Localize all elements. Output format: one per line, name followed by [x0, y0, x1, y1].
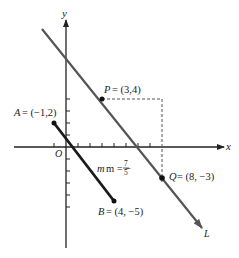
svg-text:B: B: [98, 206, 105, 217]
svg-text:= (4, −5): = (4, −5): [106, 206, 144, 218]
coordinate-diagram: y x O L P = (3,4) A = (−1,2) Q = (8, −3)…: [0, 0, 239, 258]
svg-text:= (8, −3): = (8, −3): [177, 171, 215, 183]
point-P: [100, 97, 105, 102]
slope-label: m m = − 7 5: [97, 159, 131, 177]
svg-text:= (3,4): = (3,4): [112, 84, 141, 96]
point-B: [112, 199, 117, 204]
svg-text:m: m: [97, 163, 105, 174]
point-A-label: A = (−1,2): [13, 107, 57, 119]
point-A: [52, 121, 57, 126]
origin-label: O: [55, 148, 62, 159]
point-Q-label: Q = (8, −3): [169, 171, 215, 183]
svg-text:= (−1,2): = (−1,2): [22, 107, 57, 119]
svg-text:P: P: [103, 84, 111, 95]
y-axis-label: y: [61, 7, 67, 19]
point-P-label: P = (3,4): [103, 84, 141, 96]
segment-AB: [54, 123, 114, 201]
point-B-label: B = (4, −5): [98, 206, 144, 218]
x-axis-label: x: [225, 140, 231, 152]
svg-text:5: 5: [124, 168, 128, 177]
point-Q: [159, 175, 165, 181]
svg-text:7: 7: [124, 159, 128, 168]
svg-text:Q: Q: [169, 171, 177, 182]
line-L-label: L: [203, 228, 210, 239]
svg-text:A: A: [13, 107, 21, 118]
